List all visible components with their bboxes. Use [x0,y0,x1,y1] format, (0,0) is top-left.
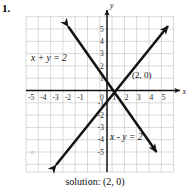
y-tick-3: 3 [100,49,104,58]
y-tick-labels-negative: -1 -2 -3 -4 -5 [98,99,104,157]
equation-label-1: x + y = 2 [30,52,67,63]
x-tick--3: -3 [53,93,59,102]
y-tick-1: 1 [100,74,104,83]
x-tick-2: 2 [125,93,129,102]
x-tick-1: 1 [113,93,117,102]
y-tick-5: 5 [100,25,104,34]
solution-caption: solution: (2, 0) [0,176,190,188]
x-axis-label: x [182,87,187,96]
y-tick--1: -1 [98,99,104,108]
y-tick--2: -2 [98,111,104,120]
equation-label-2: x - y = 2 [109,131,143,142]
y-tick--5: -5 [98,148,104,157]
y-axis-label: y [109,1,114,10]
y-tick-4: 4 [100,37,104,46]
coordinate-plane: x y -5 -4 -3 -2 -1 0 1 2 3 4 5 1 2 3 4 5 [0,0,190,192]
x-tick--4: -4 [40,93,46,102]
intersection-point-label: (2, 0) [132,70,152,80]
x-tick-3: 3 [137,93,141,102]
graph-figure: 1. [0,0,190,192]
x-tick-4: 4 [149,93,153,102]
scan-artifact-dot [31,151,33,153]
x-tick--1: -1 [77,93,83,102]
x-tick--2: -2 [65,93,71,102]
x-tick-5: 5 [162,93,166,102]
x-tick--5: -5 [28,93,34,102]
y-tick-2: 2 [100,62,104,71]
y-tick-labels-positive: 1 2 3 4 5 [100,25,104,83]
y-tick--3: -3 [98,123,104,132]
y-tick--4: -4 [98,135,104,144]
